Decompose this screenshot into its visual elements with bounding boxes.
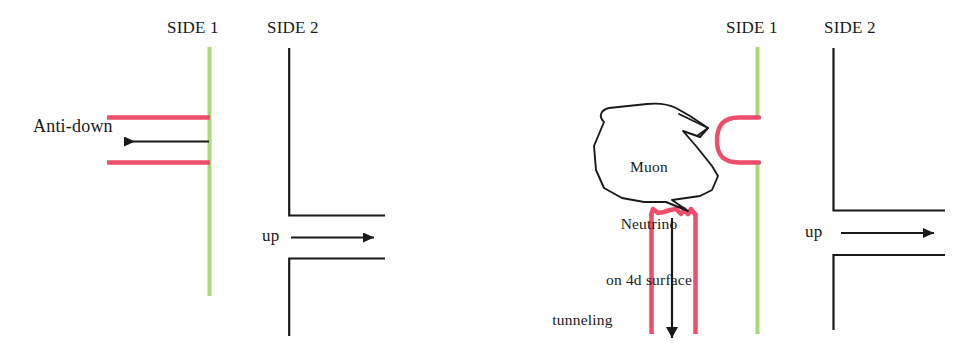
- right-side2-upper-brane: [834, 48, 946, 211]
- callout-line-2: Neutrino: [600, 215, 698, 234]
- left-side2-label: SIDE 2: [267, 18, 319, 37]
- vortex-line-1: tunneling: [530, 310, 635, 330]
- right-side1-label: SIDE 1: [726, 18, 778, 37]
- left-up-label: up: [262, 226, 279, 245]
- right-emerged-vortex-loop: [717, 118, 759, 163]
- right-up-label: up: [805, 222, 822, 241]
- right-tunneling-vortex-text: tunneling anti-down vortex: [530, 270, 635, 359]
- left-side2-upper-brane: [289, 48, 385, 216]
- left-anti-down-label: Anti-down: [33, 116, 113, 136]
- right-side2-label: SIDE 2: [824, 18, 876, 37]
- left-side1-label: SIDE 1: [167, 18, 219, 37]
- left-side2-lower-brane: [289, 259, 385, 337]
- diagram-canvas: [0, 0, 963, 359]
- callout-line-1: Muon: [600, 158, 698, 177]
- physics-diagram: SIDE 1 SIDE 2 Anti-down up SIDE 1 SIDE 2…: [0, 0, 963, 359]
- right-side2-lower-brane: [834, 255, 946, 330]
